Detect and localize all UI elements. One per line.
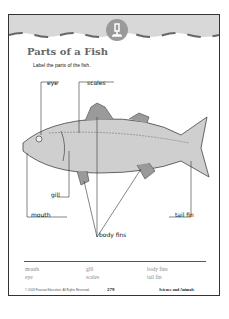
label-scales: scales: [87, 79, 106, 86]
word-bank-item: tail fin: [147, 274, 162, 280]
word-bank-item: eye: [25, 274, 33, 280]
page-number: 279: [107, 287, 115, 292]
word-bank-item: body fins: [147, 266, 168, 272]
worksheet-page: Parts of a Fish Label the parts of the f…: [8, 14, 220, 296]
copyright-text: © 2003 Pearson Education. All Rights Res…: [25, 288, 90, 292]
word-bank-item: scales: [86, 274, 99, 280]
word-bank-item: mouth: [25, 266, 39, 272]
label-eye: eye: [47, 79, 58, 86]
label-mouth: mouth: [31, 211, 50, 218]
divider: [24, 261, 206, 262]
label-gill: gill: [51, 191, 60, 198]
subject-text: Science and Animals: [159, 287, 194, 292]
microscope-icon: [106, 19, 128, 41]
word-bank-item: gill: [86, 266, 93, 272]
page-title: Parts of a Fish: [27, 46, 108, 57]
label-body-fins: body fins: [99, 231, 126, 238]
label-tail-fin: tail fin: [175, 211, 194, 218]
instruction-text: Label the parts of the fish.: [33, 62, 91, 68]
fish-diagram: [9, 73, 220, 253]
